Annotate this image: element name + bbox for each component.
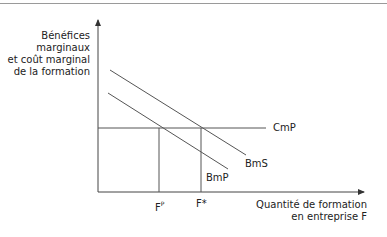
fstar-tick-label: F*	[196, 198, 207, 210]
y-axis-label-line: de la formation	[8, 66, 90, 78]
x-axis-label-line: en entreprise F	[256, 211, 367, 223]
bms-curve	[110, 70, 246, 155]
cmp-label: CmP	[273, 122, 296, 134]
y-axis-label-line: et coût marginal	[8, 54, 90, 66]
x-axis-label: Quantité de formation en entreprise F	[256, 199, 367, 223]
bmp-curve	[108, 93, 228, 169]
x-axis-label-line: Quantité de formation	[256, 199, 367, 211]
y-axis-label: Bénéfices marginaux et coût marginal de …	[8, 30, 90, 78]
fp-tick-label: FP	[155, 198, 164, 214]
fp-tick-sup: P	[161, 200, 165, 207]
y-axis-label-line: marginaux	[8, 42, 90, 54]
bms-label: BmS	[245, 158, 268, 170]
bmp-label: BmP	[206, 172, 229, 184]
y-axis-label-line: Bénéfices	[8, 30, 90, 42]
